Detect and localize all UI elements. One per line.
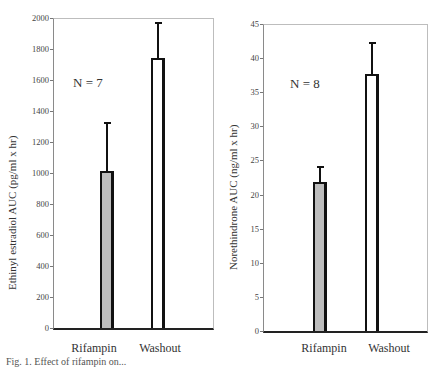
bar-rifampin: [313, 182, 327, 331]
bar-washout: [151, 58, 165, 328]
error-bar-cap: [369, 42, 376, 44]
y-tick-mark: [50, 173, 53, 174]
y-tick-label: 35: [225, 87, 259, 97]
y-tick-mark: [260, 229, 263, 230]
y-tick-mark: [260, 24, 263, 25]
y-tick-label: 400: [15, 261, 49, 271]
y-tick-mark: [260, 297, 263, 298]
error-bar: [371, 43, 373, 74]
y-tick-label: 45: [225, 19, 259, 29]
y-tick-mark: [50, 266, 53, 267]
y-tick-label: 600: [15, 230, 49, 240]
left-plot-frame: [53, 18, 214, 330]
left-chart: 0200400600800100012001400160018002000 Et…: [0, 0, 218, 350]
right-category-washout: Washout: [354, 341, 424, 356]
y-tick-label: 40: [225, 53, 259, 63]
y-tick-label: 1400: [15, 106, 49, 116]
left-y-axis-label: Ethinyl estradiol AUC (pg/ml x hr): [6, 136, 18, 290]
y-tick-label: 2000: [15, 13, 49, 23]
y-tick-mark: [50, 297, 53, 298]
y-tick-mark: [260, 195, 263, 196]
error-bar-cap: [104, 122, 111, 124]
left-category-washout: Washout: [125, 341, 195, 356]
right-chart: 051015202530354045 Norethindrone AUC (ng…: [218, 0, 437, 350]
error-bar: [319, 167, 321, 181]
y-tick-label: 800: [15, 199, 49, 209]
right-n-label: N = 8: [290, 76, 320, 92]
y-tick-mark: [50, 235, 53, 236]
y-tick-mark: [50, 18, 53, 19]
y-tick-mark: [50, 142, 53, 143]
bar-washout: [365, 74, 379, 331]
right-category-rifampin: Rifampin: [289, 341, 359, 356]
y-tick-mark: [260, 58, 263, 59]
figure-caption: Fig. 1. Effect of rifampin on...: [6, 356, 126, 367]
left-category-rifampin: Rifampin: [59, 341, 129, 356]
y-tick-label: 0: [225, 326, 259, 336]
y-tick-mark: [260, 263, 263, 264]
y-tick-mark: [50, 328, 53, 329]
y-tick-mark: [50, 80, 53, 81]
error-bar: [157, 23, 159, 58]
y-tick-mark: [50, 111, 53, 112]
error-bar-cap: [317, 166, 324, 168]
bar-rifampin: [100, 171, 114, 328]
y-tick-mark: [260, 126, 263, 127]
error-bar: [106, 123, 108, 171]
y-tick-label: 0: [15, 323, 49, 333]
right-y-axis-label: Norethindrone AUC (ng/ml x hr): [227, 125, 239, 270]
error-bar-cap: [155, 22, 162, 24]
y-tick-mark: [260, 160, 263, 161]
y-tick-label: 1000: [15, 168, 49, 178]
y-tick-mark: [260, 331, 263, 332]
y-tick-label: 5: [225, 292, 259, 302]
y-tick-mark: [50, 49, 53, 50]
y-tick-mark: [260, 92, 263, 93]
y-tick-mark: [50, 204, 53, 205]
y-tick-label: 1600: [15, 75, 49, 85]
right-plot-frame: [263, 24, 428, 333]
y-tick-label: 1200: [15, 137, 49, 147]
y-tick-label: 200: [15, 292, 49, 302]
left-n-label: N = 7: [73, 75, 103, 91]
y-tick-label: 1800: [15, 44, 49, 54]
